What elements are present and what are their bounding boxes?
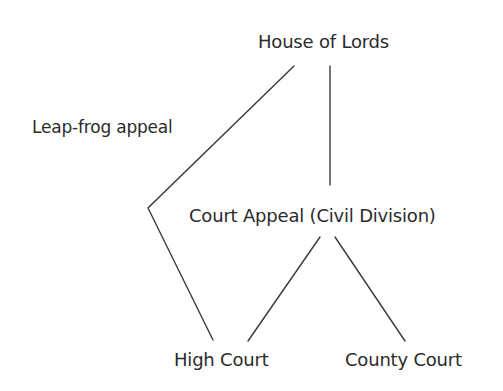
node-high-court: High Court [174, 349, 269, 371]
node-house-of-lords: House of Lords [258, 31, 389, 53]
edge-appeal-to-county [335, 237, 405, 341]
edge-label-leap-frog-appeal: Leap-frog appeal [32, 116, 173, 138]
diagram-edges [0, 0, 503, 391]
node-court-of-appeal-civil-division: Court Appeal (Civil Division) [189, 205, 436, 227]
node-county-court: County Court [345, 349, 462, 371]
court-hierarchy-diagram: House of Lords Leap-frog appeal Court Ap… [0, 0, 503, 391]
edge-leapfrog-high-to-lords [148, 66, 294, 340]
edge-appeal-to-high [248, 237, 320, 341]
